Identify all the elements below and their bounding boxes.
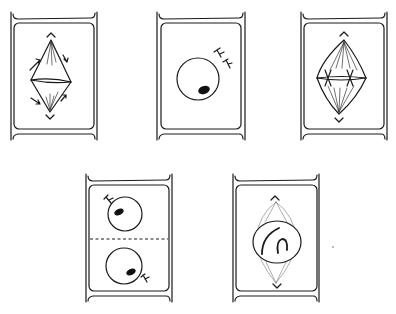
nucleus [253,221,301,263]
nucleus [106,248,142,284]
centrosome-icon [340,32,348,36]
chromosome-icon [347,70,353,86]
panel-2-interphase-cell [157,12,245,140]
centrosome-icon [214,48,224,57]
centrosome-icon [223,59,232,68]
nucleolus [125,267,137,277]
arrow-icon [31,98,40,104]
centrosome-icon [141,274,149,282]
arrow-icon [63,55,68,62]
panel-3-metaphase-cell [301,12,387,140]
centrosome-icon [47,33,55,37]
panel-1-anaphase-cell [11,12,97,140]
chromosome-icon [325,70,331,86]
panel-4-telophase-cell [86,174,172,302]
stray-mark [332,246,334,248]
centrosome-icon [335,118,343,122]
nucleus [108,197,142,231]
mitosis-diagram [0,0,396,314]
nucleolus [197,84,211,96]
centrosome-icon [104,195,113,203]
spindle [30,40,71,112]
spindle [317,40,366,114]
panel-5-prophase-cell [233,174,319,302]
nucleolus [113,207,125,217]
nucleus [177,58,219,100]
centrosome-icon [46,115,54,119]
centrosome-icon [271,196,279,200]
centrosome-icon [273,284,281,288]
